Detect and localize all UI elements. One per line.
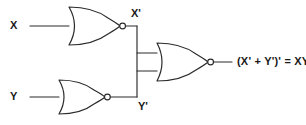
inversion-bubble-icon [208, 59, 214, 65]
logic-diagram-canvas: X Y X' Y' (X' + Y')' = XY [0, 0, 306, 125]
label-input-y: Y [10, 91, 17, 102]
label-output-expression: (X' + Y')' = XY [237, 56, 306, 67]
nor-gate-x[interactable] [69, 7, 126, 45]
nor-gate-y[interactable] [59, 80, 110, 114]
label-node-x-not: X' [131, 8, 141, 19]
nor-gate-y-body [59, 80, 105, 114]
nor-gate-output-body [157, 43, 208, 81]
nor-gate-x-body [69, 7, 120, 45]
nor-gate-output[interactable] [157, 43, 214, 81]
inversion-bubble-icon [120, 23, 126, 29]
label-input-x: X [10, 20, 17, 31]
label-node-y-not: Y' [138, 101, 148, 112]
inversion-bubble-icon [105, 94, 111, 100]
